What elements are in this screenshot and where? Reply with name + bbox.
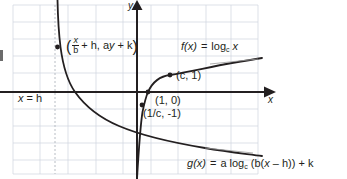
g-coefficient-a: a <box>220 157 226 169</box>
g-arg: (x) <box>193 157 206 169</box>
fraction-x-over-b: xb <box>72 36 79 55</box>
left-edge-marker <box>0 50 3 61</box>
transformed-point-label: (xb+ h,ay+ k) <box>66 36 138 55</box>
f-eq: = <box>201 40 207 52</box>
g-eq: = <box>210 157 216 169</box>
asymptote-label-x: x <box>18 92 24 104</box>
figure-canvas: y x x= h (xb+ h,ay+ k) f(x)=logcx (c, 1)… <box>0 0 347 179</box>
x-axis-label: x <box>268 95 273 105</box>
g-log-base: c <box>244 163 248 170</box>
point-1-0-dot <box>146 90 151 95</box>
transformed-plus-h: + h, <box>81 39 100 51</box>
f-log-base: c <box>226 46 230 53</box>
fraction-denominator: b <box>72 46 79 55</box>
y-axis-label: y <box>128 1 133 11</box>
transformed-y: y <box>109 39 115 51</box>
f-function-label: f(x)=logcx <box>181 41 238 53</box>
transformed-open-paren: ( <box>66 38 71 55</box>
g-log: log <box>230 157 245 169</box>
f-arg: (x) <box>184 40 197 52</box>
g-body-rest: – h)) + k <box>270 157 314 169</box>
graph-svg <box>0 0 347 179</box>
f-var: x <box>233 40 239 52</box>
point-transformed-dot <box>55 45 60 50</box>
transformed-plus-k: + k <box>118 39 133 51</box>
y-axis <box>132 0 143 179</box>
asymptote-label-eq: = h <box>27 92 43 104</box>
transformed-close-paren: ) <box>132 38 137 55</box>
f-log: log <box>211 40 226 52</box>
g-function-label: g(x)=alogc(b(x – h)) + k <box>187 158 313 170</box>
grid-lines <box>13 5 258 174</box>
point-c-1-dot <box>168 73 173 78</box>
point-c-1-label: (c, 1) <box>176 70 201 81</box>
g-body-open: (b( <box>251 157 264 169</box>
point-1-0-label: (1, 0) <box>155 95 181 106</box>
point-inv-c-neg1-label: (1/c, -1) <box>143 108 181 119</box>
asymptote-label: x= h <box>18 93 42 104</box>
